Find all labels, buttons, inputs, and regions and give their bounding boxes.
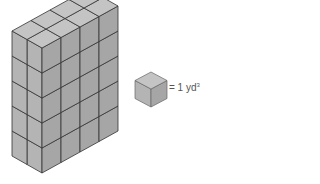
unit-legend-label: = 1 yd3 (169, 82, 200, 93)
legend-exponent: 3 (197, 82, 200, 88)
unit-cube-icon (135, 72, 167, 107)
legend-equals-text: = 1 yd (169, 82, 197, 93)
